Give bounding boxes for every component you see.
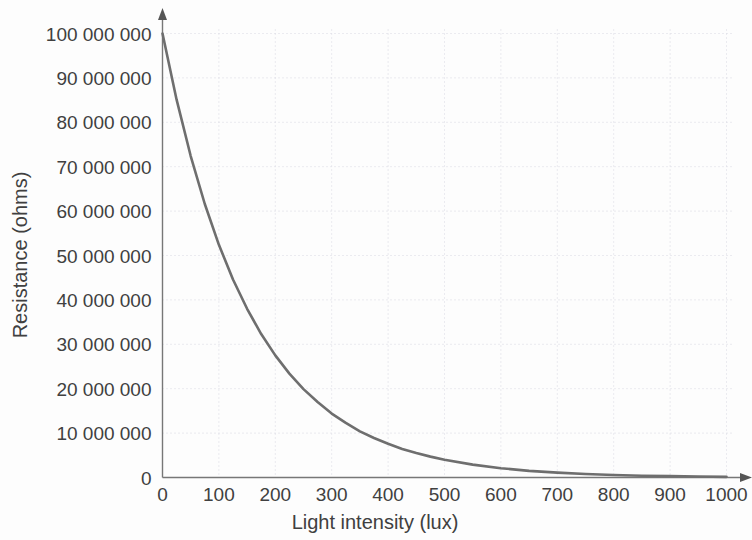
x-tick-label: 700 [541, 484, 573, 505]
x-tick-label: 100 [203, 484, 235, 505]
y-tick-label: 30 000 000 [56, 334, 151, 355]
y-tick-label: 10 000 000 [56, 423, 151, 444]
y-axis-title: Resistance (ohms) [9, 172, 31, 339]
x-tick-label: 500 [429, 484, 461, 505]
x-tick-label: 800 [598, 484, 630, 505]
x-tick-label: 400 [372, 484, 404, 505]
x-axis-title: Light intensity (lux) [292, 511, 459, 533]
x-tick-label: 300 [316, 484, 348, 505]
y-tick-label: 100 000 000 [46, 24, 152, 45]
y-tick-label: 50 000 000 [56, 246, 151, 267]
x-tick-label: 900 [654, 484, 686, 505]
y-tick-label: 40 000 000 [56, 290, 151, 311]
x-tick-label: 200 [259, 484, 291, 505]
y-tick-label: 90 000 000 [56, 68, 151, 89]
y-tick-label: 80 000 000 [56, 112, 151, 133]
y-tick-label: 60 000 000 [56, 201, 151, 222]
x-tick-label: 0 [157, 484, 168, 505]
chart-container: 010 000 00020 000 00030 000 00040 000 00… [0, 0, 752, 540]
y-tick-label: 70 000 000 [56, 157, 151, 178]
x-tick-label: 600 [485, 484, 517, 505]
resistance-light-intensity-chart: 010 000 00020 000 00030 000 00040 000 00… [0, 0, 752, 540]
x-tick-label: 1000 [705, 484, 747, 505]
y-tick-label: 20 000 000 [56, 379, 151, 400]
y-tick-label: 0 [141, 468, 152, 489]
